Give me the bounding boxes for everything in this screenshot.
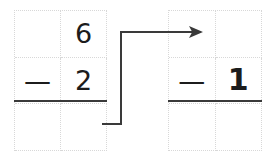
right-cell-r2c1: — — [169, 58, 216, 105]
right-problem-grid: — 1 — [168, 10, 262, 151]
left-cell-r2c1: — — [15, 58, 61, 105]
right-minus-operator-icon: — — [178, 67, 205, 94]
left-minus-operator-icon: — — [24, 67, 51, 94]
left-answer-rule — [14, 100, 107, 102]
right-cell-r2c2: 1 — [216, 58, 263, 105]
left-cell-r3c2 — [61, 104, 107, 151]
worksheet-canvas: 6 — 2 — 1 — [0, 0, 270, 162]
left-cell-r1c2: 6 — [61, 11, 107, 58]
right-cell-r1c1 — [169, 11, 216, 58]
right-cell-r1c2 — [216, 11, 263, 58]
left-cell-r3c1 — [15, 104, 61, 151]
right-answer-rule — [168, 100, 262, 102]
left-top-digit: 6 — [75, 20, 92, 47]
right-cell-r3c1 — [169, 104, 216, 151]
left-bottom-digit: 2 — [75, 67, 92, 94]
right-bottom-digit: 1 — [228, 65, 249, 95]
left-cell-r1c1 — [15, 11, 61, 58]
left-problem-grid: 6 — 2 — [14, 10, 107, 151]
right-cell-r3c2 — [216, 104, 263, 151]
left-cell-r2c2: 2 — [61, 58, 107, 105]
